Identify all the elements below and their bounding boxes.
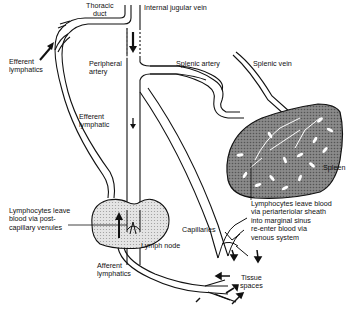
label-efferent-lymphatics: Efferent lymphatics — [9, 58, 43, 75]
label-lymphocytes-leave-spleen: Lymphocytes leave blood via periarteriol… — [251, 200, 332, 242]
label-capillaries: Capillaries — [182, 226, 216, 234]
label-spleen: Spleen — [323, 164, 345, 172]
label-splenic-vein: Splenic vein — [253, 60, 292, 68]
label-internal-jugular-vein: Internal jugular vein — [144, 4, 207, 12]
label-lymphocytes-leave-postcapillary: Lymphocytes leave blood via post- capill… — [9, 207, 70, 232]
label-thoracic-duct: Thoracic duct — [86, 2, 114, 19]
label-lymph-node: Lymph node — [141, 242, 180, 250]
down-arrow-icon — [129, 32, 137, 129]
label-tissue-spaces: Tissue spaces — [240, 274, 263, 291]
efferent-lymphatic-vessel — [55, 21, 115, 198]
label-efferent-lymphatic: Efferent lymphatic — [79, 113, 109, 130]
spleen — [227, 104, 343, 198]
lymphocyte-recirculation-diagram: Thoracic duct Internal jugular vein Effe… — [0, 0, 355, 313]
label-peripheral-artery: Peripheral artery — [89, 60, 122, 77]
diagram-drawing — [0, 0, 355, 313]
splenic-artery — [150, 66, 244, 118]
label-splenic-artery: Splenic artery — [176, 60, 220, 68]
label-afferent-lymphatics: Afferent lymphatics — [97, 262, 131, 279]
